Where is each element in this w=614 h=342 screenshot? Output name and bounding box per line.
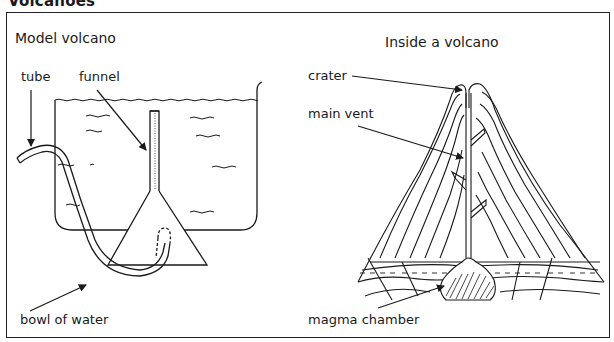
funnel-icon [108,111,207,265]
magma-chamber [440,258,495,300]
crater-arrow [352,76,462,90]
volcano-cross-section [358,84,604,300]
bowl-arrow [30,285,86,311]
main-vent-arrow [358,126,463,158]
volcano-diagrams [0,0,614,342]
model-volcano-illustration [17,82,262,276]
water-surface [55,99,258,101]
main-vent [466,93,471,258]
